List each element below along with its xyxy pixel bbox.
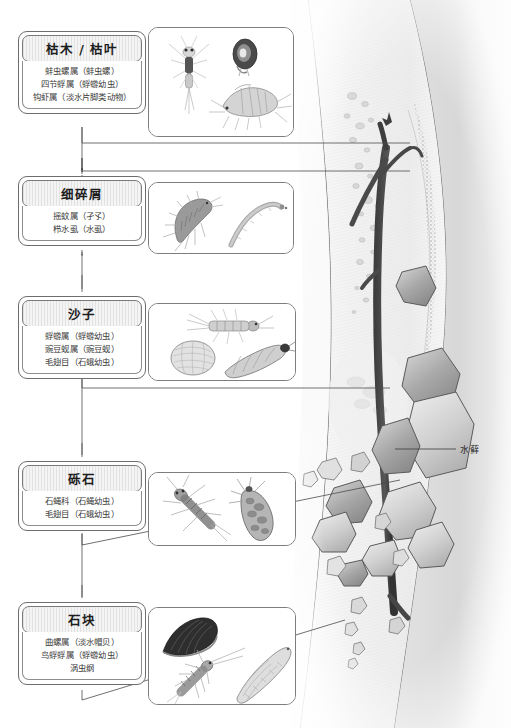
list-item: 蚌虫螺属（蚌虫螺） (25, 65, 139, 78)
list-item: 石蝇科（石蝇幼虫） (25, 495, 139, 508)
card-deadwood[interactable]: 枯木 / 枯叶 蚌虫螺属（蚌虫螺） 四节蜉属（蜉蝣幼虫） 钩虾属（淡水片脚类动物… (18, 31, 146, 114)
list-item: 鸟蜉蜉属（蜉蝣幼虫） (25, 649, 139, 662)
list-item: 钩虾属（淡水片脚类动物） (25, 91, 139, 104)
list-item: 摇蚊属（孑孓） (25, 210, 139, 223)
card-title-gravel: 砾石 (22, 465, 142, 492)
card-body-deadwood: 蚌虫螺属（蚌虫螺） 四节蜉属（蜉蝣幼虫） 钩虾属（淡水片脚类动物） (22, 61, 142, 109)
list-item: 涡虫纲 (25, 662, 139, 675)
panel-deadwood[interactable] (148, 27, 294, 137)
card-title-sand: 沙子 (22, 300, 142, 327)
list-item: 栉水虱（水虱） (25, 223, 139, 236)
callout-label-moss: 水藓 (460, 443, 479, 456)
list-item: 毛翅目（石蛾幼虫） (25, 356, 139, 369)
card-body-fine-detritus: 摇蚊属（孑孓） 栉水虱（水虱） (22, 206, 142, 241)
stream-illustration (290, 0, 511, 728)
pea-clam-icon (171, 341, 215, 375)
panel-sand[interactable] (148, 303, 296, 381)
card-title-boulder: 石块 (22, 606, 142, 633)
list-item: 豌豆蚬属（豌豆蚬） (25, 343, 139, 356)
card-boulder[interactable]: 石块 曲螺属（淡水帽贝） 鸟蜉蜉属（蜉蝣幼虫） 涡虫纲 (18, 602, 146, 685)
card-title-fine-detritus: 细碎屑 (22, 180, 142, 207)
card-title-deadwood: 枯木 / 枯叶 (22, 35, 142, 62)
panel-boulder[interactable] (148, 607, 296, 705)
card-fine-detritus[interactable]: 细碎屑 摇蚊属（孑孓） 栉水虱（水虱） (18, 176, 146, 246)
list-item: 蜉蝣属（蜉蝣幼虫） (25, 330, 139, 343)
card-body-boulder: 曲螺属（淡水帽贝） 鸟蜉蜉属（蜉蝣幼虫） 涡虫纲 (22, 632, 142, 680)
list-item: 曲螺属（淡水帽贝） (25, 636, 139, 649)
card-body-gravel: 石蝇科（石蝇幼虫） 毛翅目（石蛾幼虫） (22, 491, 142, 526)
card-sand[interactable]: 沙子 蜉蝣属（蜉蝣幼虫） 豌豆蚬属（豌豆蚬） 毛翅目（石蛾幼虫） (18, 296, 146, 379)
list-item: 毛翅目（石蛾幼虫） (25, 508, 139, 521)
panel-gravel[interactable] (148, 472, 296, 546)
panel-fine-detritus[interactable] (148, 182, 294, 254)
card-gravel[interactable]: 砾石 石蝇科（石蝇幼虫） 毛翅目（石蛾幼虫） (18, 461, 146, 531)
card-body-sand: 蜉蝣属（蜉蝣幼虫） 豌豆蚬属（豌豆蚬） 毛翅目（石蛾幼虫） (22, 326, 142, 374)
list-item: 四节蜉属（蜉蝣幼虫） (25, 78, 139, 91)
